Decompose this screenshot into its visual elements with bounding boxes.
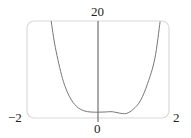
x-tick-label-0: 0 (94, 121, 101, 136)
x-tick-label-2: 2 (173, 110, 180, 125)
series-line (51, 21, 160, 114)
chart: −2 0 2 20 (0, 0, 191, 138)
x-tick-label-neg2: −2 (8, 110, 22, 125)
y-tick-label-20: 20 (91, 4, 104, 19)
